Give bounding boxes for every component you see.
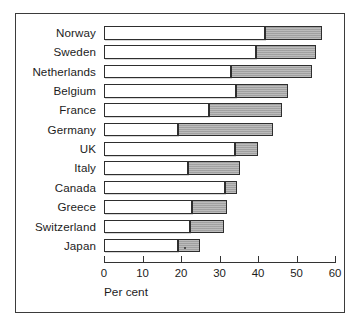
x-tick-label-10: 10: [128, 267, 158, 279]
x-tick-label-0: 0: [89, 267, 119, 279]
bar-segment-secondary: [235, 142, 258, 156]
bar-row: Greece: [0, 200, 362, 219]
print-speck-artifact: [184, 247, 186, 249]
bar-row: Norway: [0, 26, 362, 45]
bar-segment-primary: [104, 65, 231, 79]
bar-segment-primary: [104, 239, 178, 253]
bar-row: UK: [0, 142, 362, 161]
x-tick-30: [220, 256, 221, 263]
x-tick-0: [104, 256, 105, 263]
bar-segment-secondary: [256, 45, 316, 59]
bar-segment-primary: [104, 220, 190, 234]
bar-row: Canada: [0, 181, 362, 200]
category-label-germany: Germany: [48, 123, 96, 137]
x-tick-label-40: 40: [243, 267, 273, 279]
x-tick-50: [297, 256, 298, 263]
x-tick-40: [258, 256, 259, 263]
bar-segment-primary: [104, 26, 265, 40]
category-label-uk: UK: [80, 142, 96, 156]
category-label-japan: Japan: [64, 239, 96, 253]
bar-segment-secondary: [188, 161, 240, 175]
x-tick-60: [335, 256, 336, 263]
category-label-canada: Canada: [55, 181, 96, 195]
category-label-norway: Norway: [56, 26, 96, 40]
bar-rows-container: NorwaySwedenNetherlandsBelgiumFranceGerm…: [0, 0, 362, 331]
bar-segment-secondary: [190, 220, 224, 234]
bar-row: Belgium: [0, 84, 362, 103]
x-tick-label-30: 30: [205, 267, 235, 279]
bar-segment-primary: [104, 103, 209, 117]
x-tick-label-60: 60: [320, 267, 350, 279]
x-tick-20: [181, 256, 182, 263]
category-label-netherlands: Netherlands: [32, 65, 96, 79]
bar-segment-primary: [104, 161, 188, 175]
bar-segment-secondary: [178, 239, 200, 253]
bar-segment-primary: [104, 142, 235, 156]
bar-segment-primary: [104, 45, 256, 59]
bar-segment-secondary: [178, 123, 273, 137]
category-label-sweden: Sweden: [54, 45, 97, 59]
bar-row: Sweden: [0, 45, 362, 64]
category-label-france: France: [59, 103, 96, 117]
bar-segment-primary: [104, 181, 225, 195]
bar-row: France: [0, 103, 362, 122]
category-label-italy: Italy: [74, 161, 96, 175]
category-label-belgium: Belgium: [53, 84, 96, 98]
bar-segment-primary: [104, 123, 178, 137]
category-label-greece: Greece: [57, 200, 96, 214]
x-axis-title: Per cent: [104, 285, 148, 299]
x-tick-10: [143, 256, 144, 263]
bar-segment-secondary: [236, 84, 288, 98]
category-label-switzerland: Switzerland: [35, 220, 96, 234]
bar-row: Netherlands: [0, 65, 362, 84]
bar-row: Italy: [0, 161, 362, 180]
bar-row: Switzerland: [0, 220, 362, 239]
x-tick-label-50: 50: [282, 267, 312, 279]
bar-segment-secondary: [209, 103, 282, 117]
bar-row: Germany: [0, 123, 362, 142]
bar-segment-secondary: [265, 26, 322, 40]
bar-segment-primary: [104, 200, 192, 214]
bar-segment-primary: [104, 84, 236, 98]
bar-segment-secondary: [225, 181, 237, 195]
bar-segment-secondary: [192, 200, 227, 214]
x-tick-label-20: 20: [166, 267, 196, 279]
bar-segment-secondary: [231, 65, 312, 79]
chart-page: NorwaySwedenNetherlandsBelgiumFranceGerm…: [0, 0, 362, 331]
